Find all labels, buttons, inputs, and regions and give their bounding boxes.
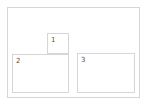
- region-3: 3: [77, 53, 135, 93]
- region-2-label: 2: [16, 57, 20, 65]
- region-1: 1: [47, 33, 69, 54]
- region-1-label: 1: [51, 36, 55, 44]
- region-3-label: 3: [81, 56, 85, 64]
- region-2: 2: [12, 54, 69, 93]
